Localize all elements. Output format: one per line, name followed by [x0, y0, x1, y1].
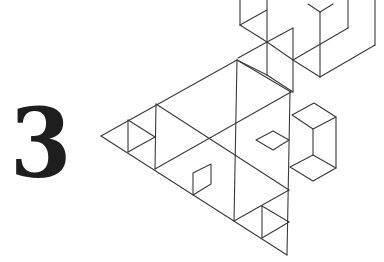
small-left-triangle-icon	[128, 120, 155, 152]
isometric-box-icon	[290, 103, 336, 181]
diamond-vertical-icon	[193, 164, 211, 195]
top-cubes-icon	[237, 0, 375, 92]
isometric-line-art	[0, 0, 384, 262]
diamond-horizontal-icon	[256, 131, 289, 150]
small-bottom-triangle-icon	[262, 206, 289, 238]
triangle-inner-lines-icon	[155, 60, 291, 221]
